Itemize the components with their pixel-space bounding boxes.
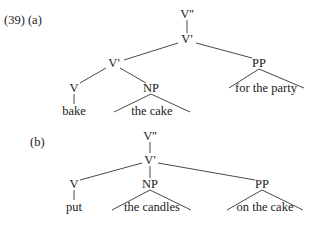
node-np: NP	[142, 178, 158, 191]
example-number: (39)	[4, 13, 25, 27]
leaf-np-words: the candles	[124, 201, 180, 214]
subexample-label-b: (b)	[30, 136, 45, 149]
node-np: NP	[143, 82, 159, 95]
node-vbar2: V''	[180, 8, 194, 21]
node-vbar-top: V'	[181, 33, 192, 46]
node-vbar2: V''	[143, 130, 157, 143]
node-pp: PP	[255, 178, 269, 191]
leaf-pp-words: for the party	[235, 82, 297, 95]
leaf-pp-words: on the cake	[237, 201, 294, 214]
leaf-v-word: bake	[62, 105, 86, 118]
node-pp: PP	[252, 57, 266, 70]
node-v: V	[69, 82, 78, 95]
leaf-np-words: the cake	[131, 105, 172, 118]
node-v: V	[69, 178, 78, 191]
node-vbar: V'	[144, 154, 155, 167]
node-vbar-inner: V'	[108, 57, 119, 70]
subexample-label-a: (a)	[28, 13, 42, 27]
example-label: (39) (a)	[4, 14, 42, 27]
leaf-v-word: put	[66, 201, 82, 214]
